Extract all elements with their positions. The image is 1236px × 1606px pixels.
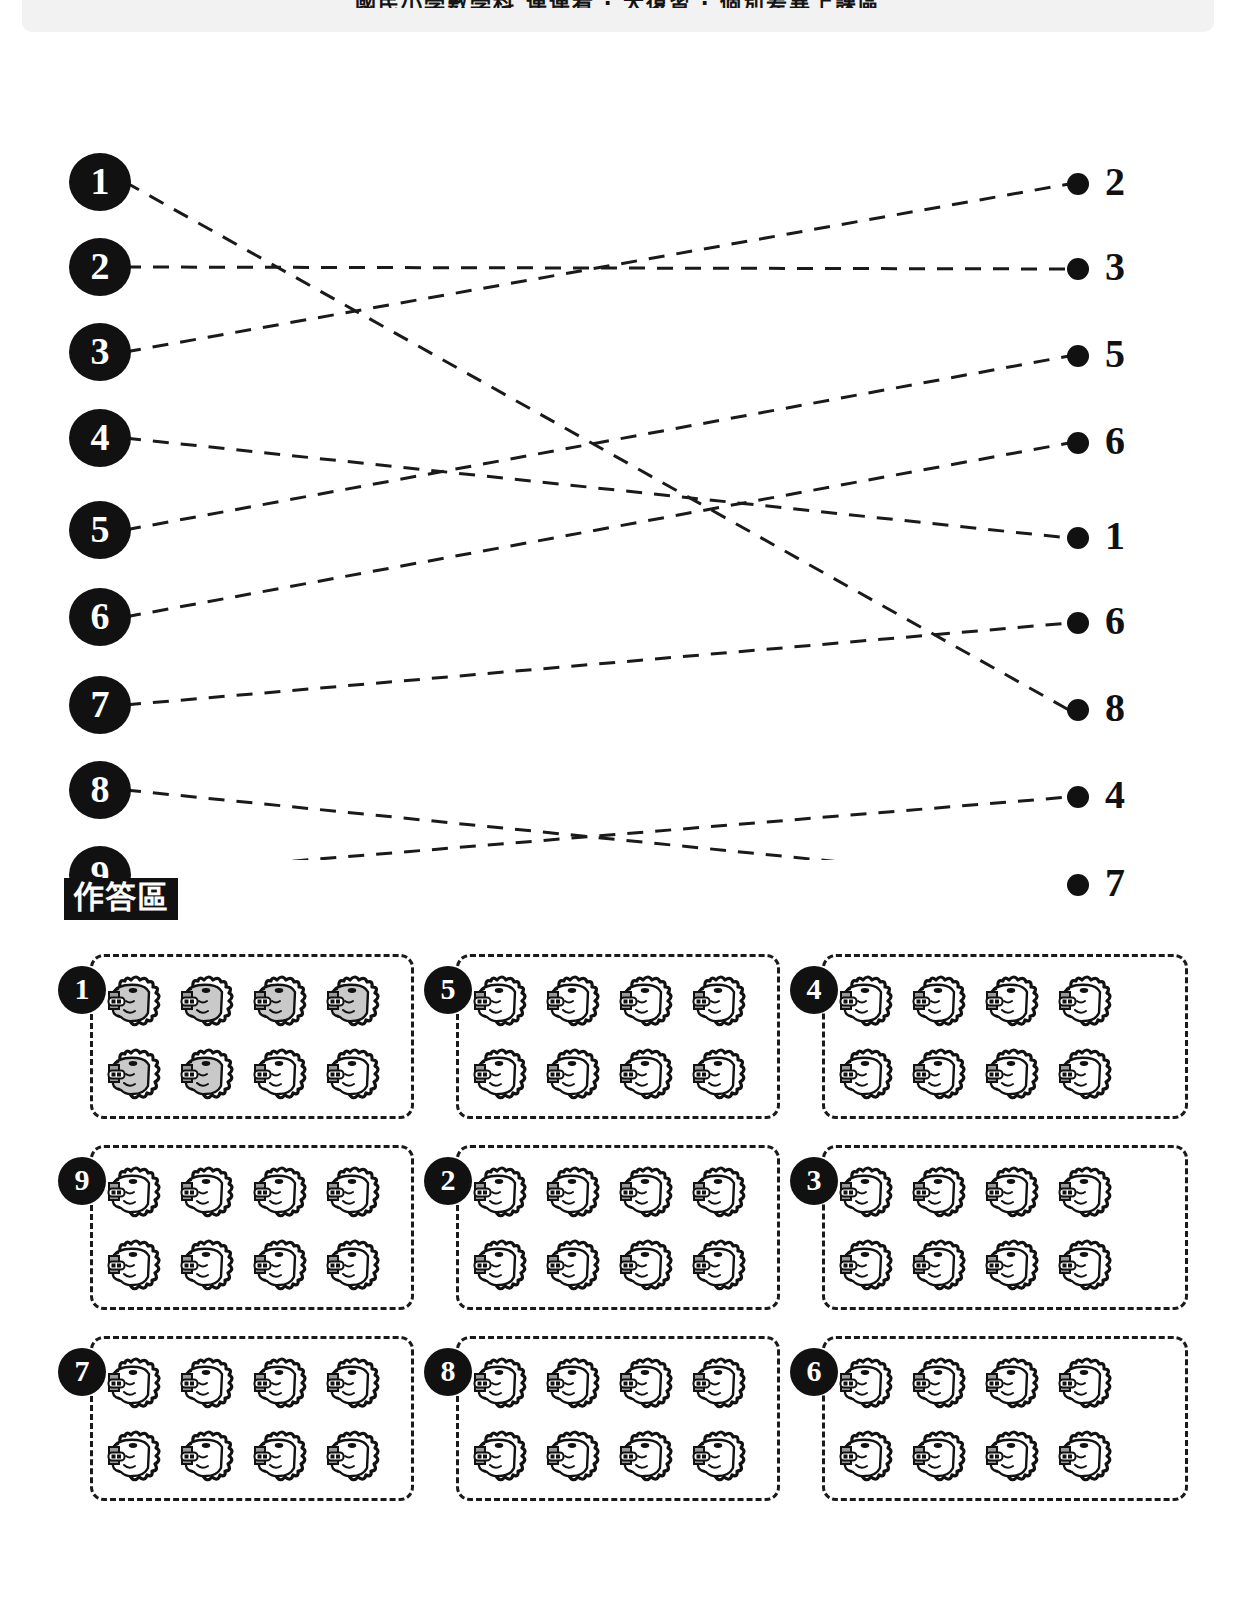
right-node-dot-0[interactable]: [1067, 173, 1089, 195]
lion-head-icon: [179, 1425, 242, 1487]
answer-group-8[interactable]: 8: [424, 1336, 780, 1501]
icon-line: [838, 1043, 1178, 1105]
lion-head-icon: [618, 1352, 681, 1414]
left-node-1[interactable]: 1: [69, 153, 131, 211]
match-line[interactable]: [125, 443, 1069, 617]
lion-head-icon: [618, 1425, 681, 1487]
answer-group-badge-6[interactable]: 6: [790, 1348, 838, 1396]
lion-head-icon: [179, 970, 242, 1032]
lion-head-icon: [179, 1352, 242, 1414]
lion-head-icon: [618, 1234, 681, 1296]
left-node-5[interactable]: 5: [69, 501, 131, 559]
icon-line: [106, 1234, 404, 1296]
right-node-dot-5[interactable]: [1067, 612, 1089, 634]
page-header-band: 國民小學數學科 連連看 ‧ 大復習 ‧ 個別差異上課區: [22, 0, 1214, 32]
lion-head-icon: [106, 1352, 169, 1414]
icon-line: [106, 1161, 404, 1223]
right-node-label-0: 2: [1105, 162, 1125, 202]
lion-head-icon: [252, 1352, 315, 1414]
match-line[interactable]: [125, 623, 1069, 705]
answer-group-badge-2[interactable]: 2: [424, 1157, 472, 1205]
left-node-6[interactable]: 6: [69, 588, 131, 646]
left-node-3[interactable]: 3: [69, 323, 131, 381]
answer-group-3[interactable]: 3: [790, 1145, 1188, 1310]
lion-head-icon: [838, 1352, 901, 1414]
lion-head-icon: [691, 970, 754, 1032]
answer-group-badge-9[interactable]: 9: [58, 1157, 106, 1205]
left-node-4[interactable]: 4: [69, 409, 131, 467]
lion-head-icon: [618, 1043, 681, 1105]
lion-head-icon: [252, 970, 315, 1032]
right-node-label-3: 6: [1105, 421, 1125, 461]
answer-group-badge-1[interactable]: 1: [58, 966, 106, 1014]
lion-head-icon: [545, 970, 608, 1032]
lion-head-icon: [1057, 1352, 1120, 1414]
answer-group-4[interactable]: 4: [790, 954, 1188, 1119]
right-node-dot-8[interactable]: [1067, 874, 1089, 896]
lion-head-icon: [911, 1425, 974, 1487]
left-node-8[interactable]: 8: [69, 761, 131, 819]
icon-line: [106, 1352, 404, 1414]
lion-head-icon: [252, 1043, 315, 1105]
matching-connection-lines: [0, 60, 1236, 860]
lion-head-icon: [691, 1425, 754, 1487]
left-node-7[interactable]: 7: [69, 676, 131, 734]
lion-head-icon: [911, 1161, 974, 1223]
right-node-dot-4[interactable]: [1067, 527, 1089, 549]
right-node-dot-7[interactable]: [1067, 786, 1089, 808]
icon-line: [106, 1425, 404, 1487]
lion-head-icon: [1057, 1234, 1120, 1296]
icon-rows: [838, 1346, 1178, 1493]
lion-head-icon: [838, 1425, 901, 1487]
lion-head-icon: [252, 1161, 315, 1223]
icon-line: [472, 970, 770, 1032]
left-node-2[interactable]: 2: [69, 238, 131, 296]
icon-rows: [472, 1346, 770, 1493]
answer-group-1[interactable]: 1: [58, 954, 414, 1119]
match-line[interactable]: [125, 438, 1069, 538]
icon-rows: [838, 1155, 1178, 1302]
lion-head-icon: [1057, 970, 1120, 1032]
icon-line: [838, 970, 1178, 1032]
page-header-title: 國民小學數學科 連連看 ‧ 大復習 ‧ 個別差異上課區: [22, 0, 1214, 8]
match-line[interactable]: [125, 356, 1069, 530]
answer-group-6[interactable]: 6: [790, 1336, 1188, 1501]
lion-head-icon: [838, 1234, 901, 1296]
answer-group-badge-7[interactable]: 7: [58, 1348, 106, 1396]
right-node-dot-1[interactable]: [1067, 258, 1089, 280]
answer-group-9[interactable]: 9: [58, 1145, 414, 1310]
lion-head-icon: [691, 1352, 754, 1414]
answer-group-7[interactable]: 7: [58, 1336, 414, 1501]
icon-line: [838, 1352, 1178, 1414]
lion-head-icon: [106, 1425, 169, 1487]
icon-rows: [106, 964, 404, 1111]
match-line[interactable]: [125, 182, 1069, 710]
right-node-label-8: 7: [1105, 863, 1125, 903]
match-line[interactable]: [125, 797, 1069, 860]
lion-head-icon: [472, 1043, 535, 1105]
right-node-dot-2[interactable]: [1067, 345, 1089, 367]
match-line[interactable]: [125, 790, 1069, 860]
answer-group-5[interactable]: 5: [424, 954, 780, 1119]
icon-line: [472, 1234, 770, 1296]
answer-group-badge-3[interactable]: 3: [790, 1157, 838, 1205]
lion-head-icon: [1057, 1043, 1120, 1105]
lion-head-icon: [325, 1425, 388, 1487]
answer-group-badge-8[interactable]: 8: [424, 1348, 472, 1396]
lion-head-icon: [472, 1352, 535, 1414]
lion-head-icon: [838, 1043, 901, 1105]
icon-rows: [472, 964, 770, 1111]
right-node-dot-6[interactable]: [1067, 699, 1089, 721]
answer-group-badge-4[interactable]: 4: [790, 966, 838, 1014]
right-node-label-7: 4: [1105, 775, 1125, 815]
icon-line: [472, 1043, 770, 1105]
answer-group-2[interactable]: 2: [424, 1145, 780, 1310]
answer-row: 1: [58, 936, 1188, 1127]
right-node-dot-3[interactable]: [1067, 432, 1089, 454]
answer-group-badge-5[interactable]: 5: [424, 966, 472, 1014]
answer-row: 9: [58, 1127, 1188, 1318]
right-node-label-1: 3: [1105, 247, 1125, 287]
lion-head-icon: [984, 1352, 1047, 1414]
icon-line: [838, 1161, 1178, 1223]
lion-head-icon: [1057, 1161, 1120, 1223]
